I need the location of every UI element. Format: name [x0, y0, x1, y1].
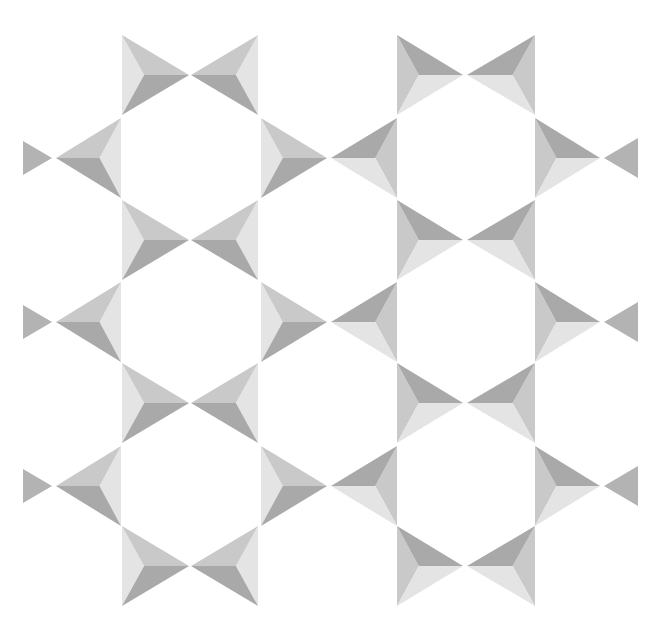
edge-right-tip-0: [604, 138, 638, 178]
edge-left-tip-1: [23, 305, 52, 339]
edge-right-tip-2: [604, 466, 638, 506]
kagome-pattern-figure: [0, 0, 655, 626]
edge-left-tip-0: [23, 141, 52, 175]
edge-right-tip-1: [604, 302, 638, 342]
triangle-tiling-graphic: [0, 0, 655, 626]
edge-left-tip-2: [23, 469, 52, 503]
